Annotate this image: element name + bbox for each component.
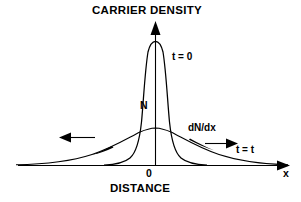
x-axis-variable-label: x [283, 168, 289, 179]
flux-wedge-right [189, 139, 214, 151]
amplitude-label-n: N [140, 100, 148, 111]
diffusion-arrow-left [59, 133, 114, 155]
y-axis-arrowhead [151, 21, 161, 35]
origin-label: 0 [146, 168, 152, 179]
gradient-label-dn-dx: dN/dx [188, 123, 216, 133]
curve-label-t-later: t = t [236, 145, 254, 155]
chart-title: CARRIER DENSITY [92, 5, 202, 17]
diffusion-arrow-right [189, 139, 238, 151]
x-axis-title: DISTANCE [110, 183, 170, 195]
curve-label-t-initial: t = 0 [172, 52, 192, 62]
flux-arrow-head-left [59, 133, 71, 143]
carrier-density-diagram: CARRIER DENSITY t = 0 N dN/dx t = t 0 x … [0, 0, 301, 202]
